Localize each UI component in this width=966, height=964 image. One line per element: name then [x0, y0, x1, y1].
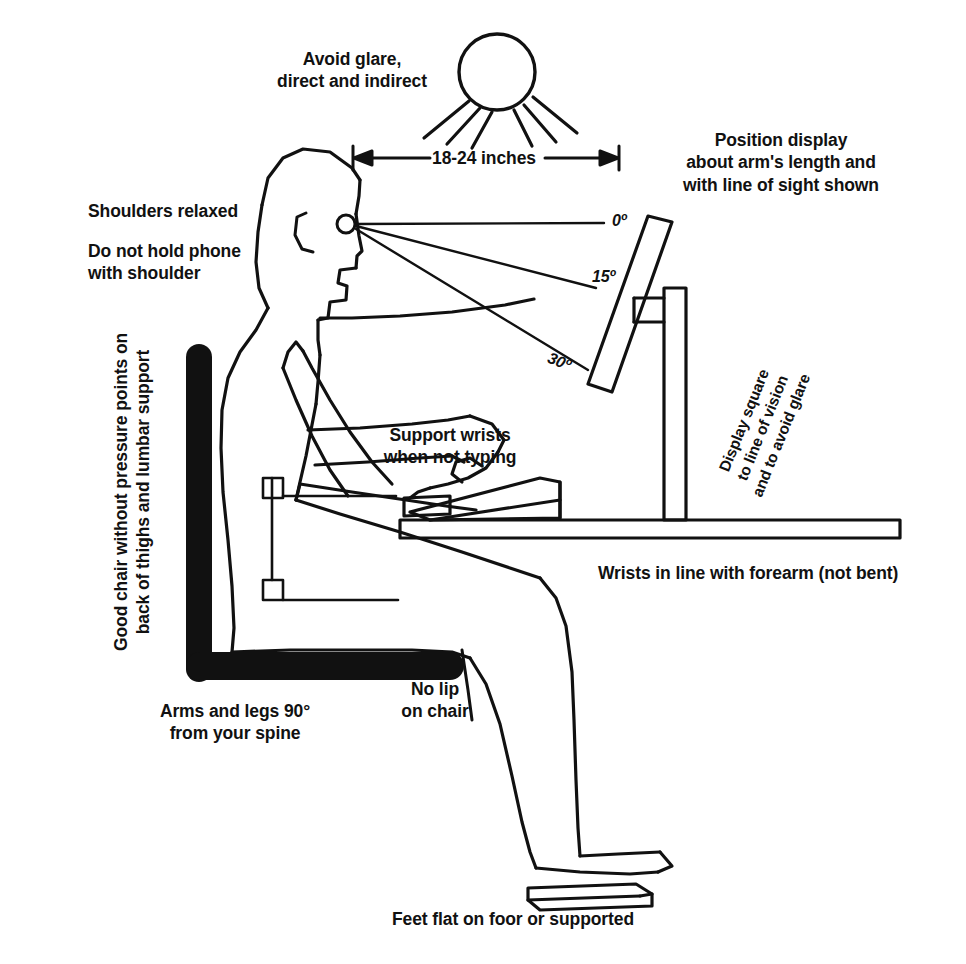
monitor-display: [588, 216, 672, 392]
label-no-lip-on-chair: No lip on chair: [380, 678, 490, 723]
label-support-wrists: Support wrists when not typing: [340, 424, 560, 469]
sight-lines: [356, 223, 604, 370]
label-angle-15: 15º: [592, 267, 615, 287]
footrest: [528, 884, 652, 910]
label-good-chair: Good chair without pressure points on ba…: [110, 322, 155, 662]
seated-person-head: [256, 149, 362, 320]
label-no-phone-shoulder: Do not hold phone with shoulder: [88, 240, 318, 285]
seated-person-arm: [283, 342, 504, 498]
label-feet-flat: Feet flat on foor or supported: [348, 908, 678, 930]
label-wrists-in-line: Wrists in line with forearm (not bent): [598, 562, 966, 584]
desk-surface: [400, 520, 900, 538]
label-angle-0: 0º: [612, 211, 627, 231]
label-arms-legs-90: Arms and legs 90° from your spine: [120, 700, 350, 745]
label-position-display: Position display about arm's length and …: [626, 129, 936, 196]
label-shoulders-relaxed: Shoulders relaxed: [88, 200, 318, 222]
ergonomics-diagram: Avoid glare, direct and indirect 18-24 i…: [0, 0, 966, 964]
label-avoid-glare: Avoid glare, direct and indirect: [252, 48, 452, 93]
seated-person-leg: [470, 578, 672, 874]
label-viewing-distance: 18-24 inches: [404, 147, 564, 169]
monitor-post: [634, 288, 686, 520]
office-chair: [186, 344, 464, 682]
